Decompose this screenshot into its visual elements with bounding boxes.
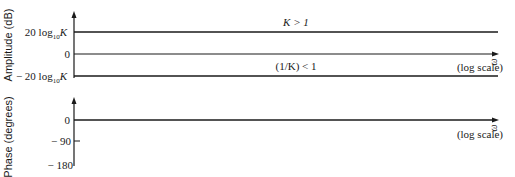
bode-diagram: Amplitude (dB) 20 log10K 0 − 20 log10K K… bbox=[0, 0, 515, 177]
log-scale-note-phase: (log scale) bbox=[457, 128, 503, 141]
phase-x-arrow-icon bbox=[492, 118, 499, 123]
phase-axis-label: Phase (degrees) bbox=[2, 96, 14, 177]
tick-zero-db: 0 bbox=[65, 48, 71, 60]
tick-phase-0: 0 bbox=[65, 114, 71, 126]
amplitude-y-arrow-icon bbox=[72, 11, 77, 18]
label-k-greater-1: K > 1 bbox=[282, 16, 309, 28]
amplitude-plot: Amplitude (dB) 20 log10K 0 − 20 log10K K… bbox=[2, 9, 503, 85]
phase-y-arrow-icon bbox=[72, 97, 77, 104]
amplitude-axis-label: Amplitude (dB) bbox=[2, 9, 14, 82]
phase-plot: Phase (degrees) 0 − 90 − 180 ω (log scal… bbox=[2, 96, 503, 177]
label-inverse-k-less-1: (1/K) < 1 bbox=[275, 60, 316, 73]
tick-neg-20logK: − 20 log10K bbox=[16, 70, 68, 85]
tick-phase-neg180: − 180 bbox=[48, 159, 74, 171]
tick-20logK: 20 log10K bbox=[25, 26, 68, 41]
tick-phase-neg90: − 90 bbox=[51, 135, 71, 147]
amplitude-x-arrow-icon bbox=[492, 52, 499, 57]
log-scale-note-amplitude: (log scale) bbox=[457, 61, 503, 74]
